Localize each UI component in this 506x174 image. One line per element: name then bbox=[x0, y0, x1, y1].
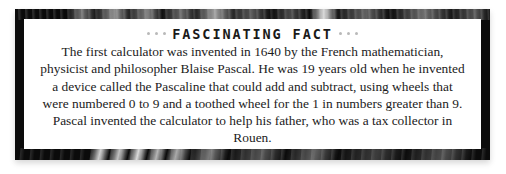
fact-heading-text: FASCINATING FACT bbox=[172, 26, 332, 42]
dot-icon bbox=[147, 32, 150, 35]
dot-icon bbox=[155, 32, 158, 35]
heading-left-dots-icon bbox=[147, 32, 166, 36]
fact-card-interior: FASCINATING FACT The first calculator wa… bbox=[24, 19, 481, 149]
fact-heading-row: FASCINATING FACT bbox=[36, 26, 469, 42]
fact-body-text: The first calculator was invented in 164… bbox=[36, 43, 469, 147]
decorative-grunge-frame: FASCINATING FACT The first calculator wa… bbox=[15, 9, 490, 160]
dot-icon bbox=[355, 32, 358, 35]
dot-icon bbox=[163, 32, 166, 35]
heading-right-dots-icon bbox=[339, 32, 358, 36]
dot-icon bbox=[347, 32, 350, 35]
fascinating-fact-callout: FASCINATING FACT The first calculator wa… bbox=[0, 0, 506, 174]
dot-icon bbox=[339, 32, 342, 35]
